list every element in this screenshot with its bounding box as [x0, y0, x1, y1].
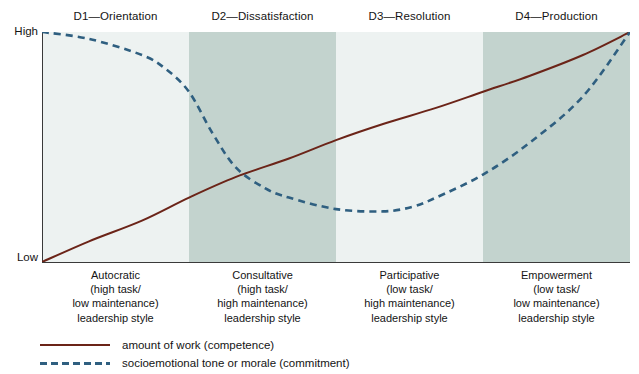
plot-area — [42, 32, 630, 262]
style-label-line2: (low task/ — [483, 282, 630, 296]
style-label-line3: high maintenance) — [336, 296, 483, 310]
y-axis-label-low: Low — [2, 251, 38, 263]
style-label-consultative: Consultative (high task/ high maintenanc… — [189, 268, 336, 325]
style-label-line1: Empowerment — [483, 268, 630, 282]
style-label-line4: leadership style — [336, 311, 483, 325]
style-label-line3: low maintenance) — [483, 296, 630, 310]
y-axis-label-high: High — [2, 25, 38, 37]
phase-header-d4: D4—Production — [483, 5, 630, 27]
x-axis-line — [42, 262, 630, 263]
style-label-line2: (high task/ — [42, 282, 189, 296]
style-label-line4: leadership style — [42, 311, 189, 325]
style-label-line4: leadership style — [483, 311, 630, 325]
style-label-autocratic: Autocratic (high task/ low maintenance) … — [42, 268, 189, 325]
style-label-line4: leadership style — [189, 311, 336, 325]
legend-label-competence: amount of work (competence) — [122, 339, 274, 351]
phase-header-d2: D2—Dissatisfaction — [189, 5, 336, 27]
style-label-line2: (high task/ — [189, 282, 336, 296]
phase-header-row: D1—Orientation D2—Dissatisfaction D3—Res… — [42, 5, 630, 27]
phase-header-d1: D1—Orientation — [42, 5, 189, 27]
style-label-line1: Autocratic — [42, 268, 189, 282]
style-label-line1: Consultative — [189, 268, 336, 282]
legend-item-commitment: socioemotional tone or morale (commitmen… — [36, 354, 596, 372]
style-label-participative: Participative (low task/ high maintenanc… — [336, 268, 483, 325]
legend-item-competence: amount of work (competence) — [36, 336, 596, 354]
style-label-line1: Participative — [336, 268, 483, 282]
series-line-competence — [42, 32, 630, 262]
curve-layer — [42, 32, 630, 262]
chart-root: D1—Orientation D2—Dissatisfaction D3—Res… — [0, 0, 639, 374]
legend-label-commitment: socioemotional tone or morale (commitmen… — [122, 357, 350, 369]
style-label-line3: low maintenance) — [42, 296, 189, 310]
legend-swatch-dashed-icon — [36, 357, 114, 369]
phase-header-d3: D3—Resolution — [336, 5, 483, 27]
series-line-commitment — [42, 32, 630, 212]
style-label-line2: (low task/ — [336, 282, 483, 296]
style-label-empowerment: Empowerment (low task/ low maintenance) … — [483, 268, 630, 325]
style-label-line3: high maintenance) — [189, 296, 336, 310]
style-label-row: Autocratic (high task/ low maintenance) … — [42, 268, 630, 325]
chart-legend: amount of work (competence) socioemotion… — [36, 336, 596, 372]
legend-swatch-solid-icon — [36, 339, 114, 351]
